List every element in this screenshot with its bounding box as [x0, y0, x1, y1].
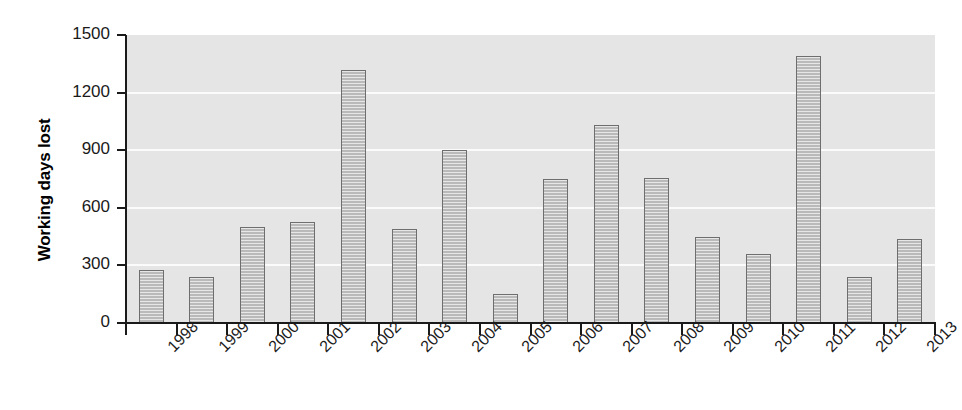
bar-2007: [594, 125, 619, 323]
x-tick-label-2003: 2003: [417, 343, 430, 356]
x-tick-label-2007: 2007: [619, 343, 632, 356]
y-tick-label: 0: [52, 312, 110, 332]
x-tick: [125, 324, 127, 335]
x-tick-label-2006: 2006: [569, 343, 582, 356]
bar-2001: [290, 222, 315, 323]
y-tick: [117, 264, 126, 266]
y-tick: [117, 34, 126, 36]
x-tick-label-2012: 2012: [872, 343, 885, 356]
x-tick-label-2004: 2004: [468, 343, 481, 356]
plot-area: [126, 35, 935, 323]
bar-2006: [543, 179, 568, 323]
x-tick-label-2000: 2000: [265, 343, 278, 356]
bar-2005: [493, 294, 518, 323]
x-tick-label-2005: 2005: [518, 343, 531, 356]
y-tick-label: 1500: [52, 24, 110, 44]
bar-1998: [139, 270, 164, 323]
bar-chart: Working days lost 030060090012001500 199…: [0, 0, 962, 410]
x-tick-label-2009: 2009: [720, 343, 733, 356]
y-tick: [117, 207, 126, 209]
y-axis-title: Working days lost: [35, 65, 55, 315]
x-tick-label-2010: 2010: [771, 343, 784, 356]
x-tick-label-2008: 2008: [670, 343, 683, 356]
x-tick-label-2013: 2013: [923, 343, 936, 356]
bar-1999: [189, 277, 214, 323]
y-tick-label: 1200: [52, 82, 110, 102]
bar-2000: [240, 227, 265, 323]
bar-2003: [392, 229, 417, 323]
y-tick-label: 600: [52, 197, 110, 217]
bar-2012: [847, 277, 872, 323]
y-axis-line: [125, 35, 127, 324]
x-tick-label-1998: 1998: [164, 343, 177, 356]
x-tick-label-1999: 1999: [215, 343, 228, 356]
x-tick-label-2001: 2001: [316, 343, 329, 356]
y-tick-label: 300: [52, 254, 110, 274]
bar-2010: [746, 254, 771, 323]
x-tick-label-2011: 2011: [822, 343, 835, 356]
bar-2002: [341, 70, 366, 323]
bar-2009: [695, 237, 720, 323]
x-tick-label-2002: 2002: [367, 343, 380, 356]
bar-2011: [796, 56, 821, 323]
y-tick: [117, 149, 126, 151]
bar-2004: [442, 150, 467, 323]
y-tick-label: 900: [52, 139, 110, 159]
y-tick: [117, 92, 126, 94]
bar-2013: [897, 239, 922, 323]
bar-2008: [644, 178, 669, 323]
